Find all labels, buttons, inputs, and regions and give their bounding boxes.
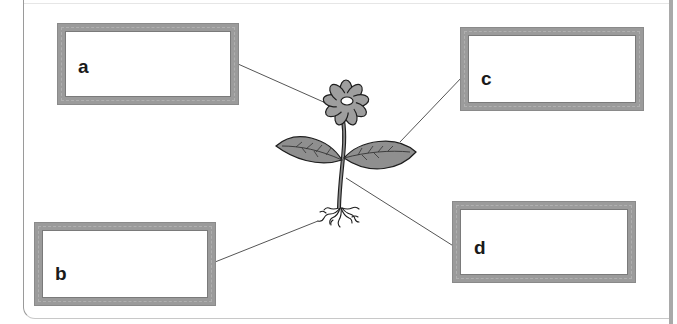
answer-box-d[interactable]: d bbox=[453, 202, 635, 282]
label-b: b bbox=[55, 264, 67, 283]
answer-box-c[interactable]: c bbox=[461, 28, 643, 110]
top-divider bbox=[24, 3, 669, 4]
answer-box-a[interactable]: a bbox=[58, 24, 238, 104]
answer-box-b[interactable]: b bbox=[35, 223, 215, 305]
label-d: d bbox=[474, 238, 486, 257]
label-a: a bbox=[78, 57, 89, 76]
right-page-edge bbox=[669, 0, 673, 324]
label-c: c bbox=[481, 69, 492, 88]
